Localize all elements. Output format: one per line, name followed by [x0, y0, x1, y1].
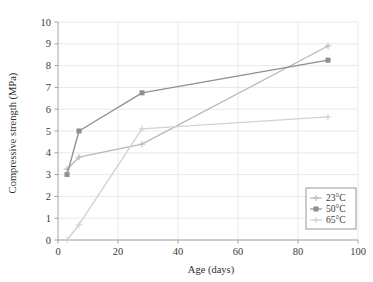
y-tick-label: 6 [46, 104, 51, 115]
x-tick-label: 80 [293, 246, 304, 257]
x-tick-label: 100 [350, 246, 366, 257]
y-tick-label: 0 [46, 235, 51, 246]
chart-legend[interactable]: 23°C50°C65°C [306, 188, 356, 229]
square-marker [326, 58, 330, 62]
x-tick-label: 0 [55, 246, 60, 257]
x-tick-label: 60 [233, 246, 244, 257]
x-axis-title: Age (days) [188, 264, 235, 276]
y-tick-label: 2 [46, 191, 51, 202]
legend-label: 65°C [326, 215, 346, 225]
square-marker [77, 129, 81, 133]
y-tick-label: 10 [41, 17, 52, 28]
chart-container: 012345678910 020406080100 Compressive st… [0, 0, 373, 282]
legend-label: 50°C [326, 204, 346, 214]
y-tick-label: 9 [46, 38, 51, 49]
y-tick-label: 4 [46, 147, 52, 158]
y-tick-label: 7 [46, 82, 51, 93]
square-marker [65, 173, 69, 177]
y-tick-label: 5 [46, 126, 51, 137]
y-tick-label: 1 [46, 213, 51, 224]
y-tick-label: 8 [46, 60, 51, 71]
y-axis-title: Compressive strength (MPa) [7, 72, 19, 193]
x-tick-label: 20 [113, 246, 124, 257]
y-tick-label: 3 [46, 169, 51, 180]
legend-label: 23°C [326, 193, 346, 203]
square-marker [140, 91, 144, 95]
compressive-strength-line-chart: 012345678910 020406080100 Compressive st… [0, 0, 373, 282]
x-tick-label: 40 [173, 246, 184, 257]
square-marker [314, 207, 318, 211]
